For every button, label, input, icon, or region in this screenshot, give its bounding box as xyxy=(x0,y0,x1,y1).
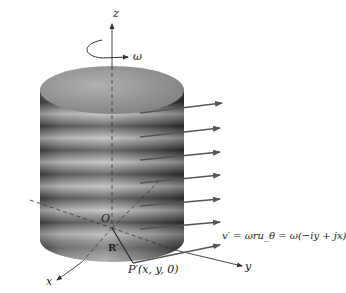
z-axis-label: z xyxy=(113,8,119,19)
rotation-arrow xyxy=(87,40,128,58)
x-axis-label: x xyxy=(46,276,52,287)
position-vector-label: R′ xyxy=(108,243,119,253)
origin-label: O xyxy=(101,213,110,224)
point-label: P′(x, y, 0) xyxy=(128,264,178,275)
velocity-equation: v′ = ωru_θ = ω(−iy + jx) xyxy=(222,231,346,241)
omega-label: ω xyxy=(133,51,142,62)
x-axis xyxy=(57,262,82,280)
y-axis-label: y xyxy=(245,261,251,272)
